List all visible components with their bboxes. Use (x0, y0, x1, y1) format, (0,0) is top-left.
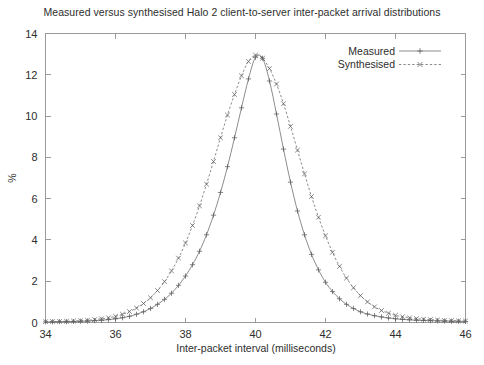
y-tick-label: 6 (31, 193, 37, 205)
y-tick-label: 12 (25, 69, 37, 81)
y-tick-label: 14 (25, 28, 37, 40)
data-series (43, 53, 468, 325)
series-markers (43, 55, 468, 325)
series-markers (43, 53, 468, 324)
y-tick-label: 0 (31, 317, 37, 329)
x-axis-ticks: 34363840424446 (39, 34, 471, 340)
plot-frame (46, 34, 466, 323)
y-axis-ticks: 02468101214 (25, 28, 465, 329)
plot-area: 34363840424446 02468101214 MeasuredSynth… (0, 0, 484, 365)
x-tick-label: 44 (389, 328, 401, 340)
x-tick-label: 40 (249, 328, 261, 340)
y-axis-title: % (6, 173, 18, 182)
x-tick-label: 38 (179, 328, 191, 340)
series-line (46, 55, 466, 322)
x-tick-label: 46 (459, 328, 471, 340)
y-tick-label: 2 (31, 275, 37, 287)
x-tick-label: 34 (39, 328, 51, 340)
x-tick-label: 36 (109, 328, 121, 340)
series-synthesised (43, 53, 468, 324)
series-measured (43, 55, 468, 325)
chart-legend: MeasuredSynthesised (338, 45, 441, 71)
y-tick-label: 8 (31, 151, 37, 163)
y-tick-label: 10 (25, 110, 37, 122)
legend-label-synthesised: Synthesised (338, 58, 395, 70)
x-axis-title: Inter-packet interval (milliseconds) (176, 342, 335, 354)
series-line (46, 55, 466, 322)
legend-label-measured: Measured (348, 45, 395, 57)
x-tick-label: 42 (319, 328, 331, 340)
y-tick-label: 4 (31, 234, 37, 246)
chart-figure: Measured versus synthesised Halo 2 clien… (0, 0, 484, 365)
